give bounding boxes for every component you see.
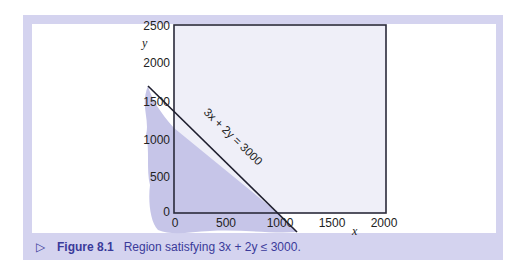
svg-text:1500: 1500 bbox=[143, 95, 170, 109]
x-axis-label: x bbox=[351, 224, 358, 238]
figure-caption: ▷ Figure 8.1 Region satisfying 3x + 2y ≤… bbox=[36, 239, 301, 255]
y-axis-label: y bbox=[141, 36, 148, 50]
svg-text:0: 0 bbox=[172, 216, 179, 230]
caption-marker-icon: ▷ bbox=[36, 240, 45, 254]
caption-text: Region satisfying 3x + 2y ≤ 3000. bbox=[124, 240, 301, 254]
svg-text:2000: 2000 bbox=[143, 56, 170, 70]
figure-label: Figure 8.1 bbox=[57, 240, 114, 254]
svg-text:2500: 2500 bbox=[143, 19, 170, 33]
svg-text:1000: 1000 bbox=[267, 216, 294, 230]
svg-text:1000: 1000 bbox=[143, 133, 170, 147]
svg-text:2000: 2000 bbox=[371, 216, 398, 230]
svg-text:1500: 1500 bbox=[319, 216, 346, 230]
chart: 2500 2000 1500 1000 500 0 y 0 500 1000 1… bbox=[0, 0, 528, 278]
svg-text:500: 500 bbox=[150, 170, 170, 184]
svg-text:0: 0 bbox=[163, 205, 170, 219]
svg-text:500: 500 bbox=[216, 216, 236, 230]
